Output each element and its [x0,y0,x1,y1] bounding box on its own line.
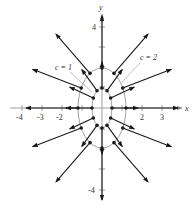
sample-dot [100,86,104,90]
sample-dot [100,146,104,150]
curve-label-c1: c = 1 [55,63,72,72]
sample-dot [92,96,96,100]
sample-dot [109,96,113,100]
sample-dot [95,124,99,128]
diagram-canvas: x y -4 -3 -2 2 3 4 -4 c = 1 c = 2 [0,0,194,208]
x-tick-label: -4 [16,113,23,122]
sample-dot [109,116,113,120]
x-tick-label: -2 [56,113,63,122]
sample-dot [105,124,109,128]
curve-label-c2: c = 2 [140,53,157,62]
x-tick-label: 3 [160,113,164,122]
sample-dot [105,89,109,93]
y-axis-label: y [98,3,103,12]
sample-dot [88,72,92,76]
sample-dot [92,116,96,120]
sample-dot [90,106,94,110]
field-arrow [56,143,90,182]
x-tick-label: 2 [140,113,144,122]
sample-dot [95,89,99,93]
field-arrow [114,143,148,182]
sample-dot [124,106,128,110]
sample-dot [121,126,125,130]
sample-dot [100,66,104,70]
sample-dot [110,106,114,110]
x-axis-label: x [184,104,189,113]
sample-dot [112,72,116,76]
axes [10,14,182,200]
sample-dot [112,141,116,145]
vector-field-diagram: x y -4 -3 -2 2 3 4 -4 c = 1 c = 2 [0,0,194,208]
field-arrow [123,69,172,88]
field-arrow [123,128,172,147]
y-tick-label: 4 [92,23,96,32]
sample-dot [100,126,104,130]
field-arrow [33,128,82,147]
sample-dot [121,86,125,90]
field-arrow [33,69,82,88]
x-tick-label: -3 [37,113,44,122]
sample-dot [79,86,83,90]
y-tick-label: -4 [88,186,95,195]
sample-dot [76,106,80,110]
sample-dot [79,126,83,130]
sample-dot [88,141,92,145]
